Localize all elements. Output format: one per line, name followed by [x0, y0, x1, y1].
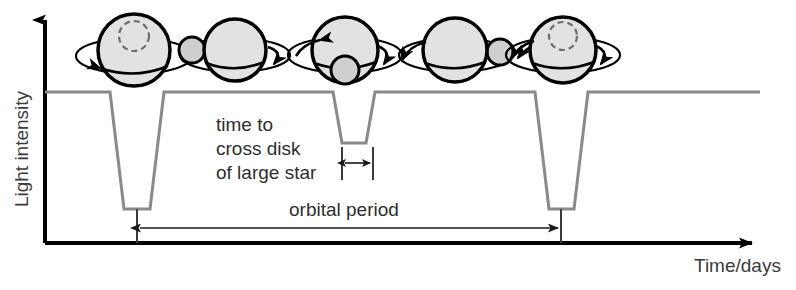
orbital-period-label: orbital period — [289, 198, 399, 222]
transit-label-line-2: cross disk — [216, 137, 316, 161]
orbit-arrow-right-2 — [268, 47, 278, 64]
star-diagram-phase-2 — [179, 19, 290, 81]
transit-label-line-1: time to — [216, 113, 316, 137]
star-diagram-phase-3 — [288, 17, 402, 84]
primary-star-2 — [204, 19, 266, 81]
star-diagram-phase-5 — [506, 17, 620, 83]
eclipsing-binary-figure: Light intensity Time/days time to cross … — [0, 0, 796, 290]
transit-label-line-3: of large star — [216, 161, 316, 185]
figure-canvas — [0, 0, 796, 290]
star-diagram-phase-1 — [76, 14, 192, 86]
light-curve-group — [45, 92, 760, 209]
star-diagram-phase-4 — [399, 18, 536, 82]
transit-duration-label: time to cross disk of large star — [216, 113, 316, 185]
x-axis-label: Time/days — [694, 255, 781, 277]
primary-star-4 — [423, 18, 487, 82]
companion-star-2 — [179, 37, 205, 63]
light-curve-line — [45, 92, 760, 209]
transit-duration-bracket — [342, 147, 373, 180]
companion-star-transiting-3 — [331, 56, 359, 84]
y-axis-label: Light intensity — [11, 59, 33, 239]
